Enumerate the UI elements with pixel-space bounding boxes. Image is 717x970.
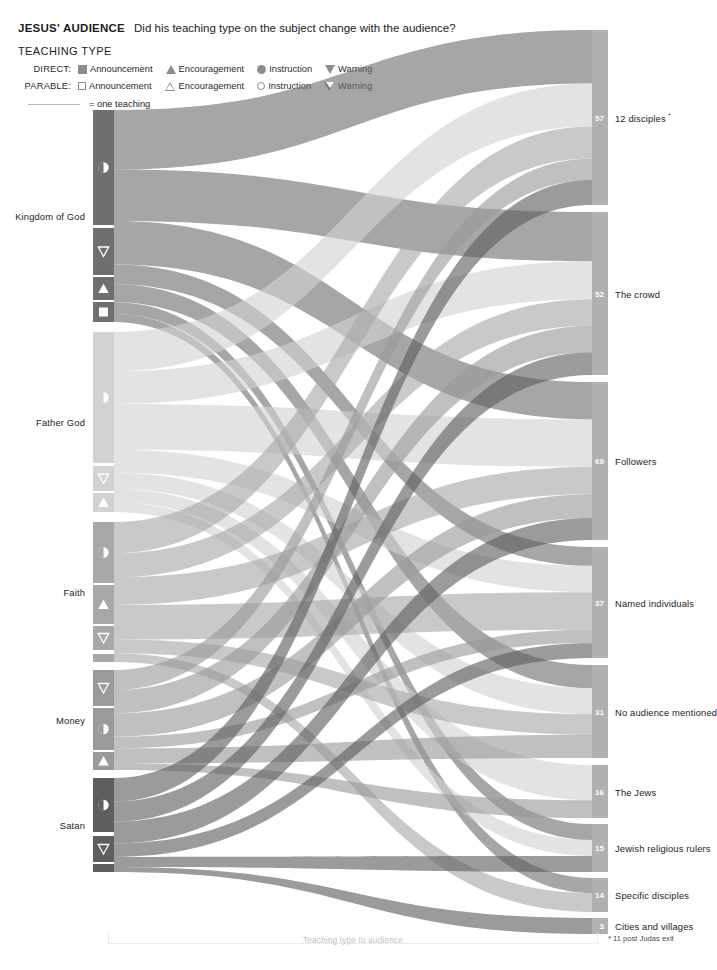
circle-half-icon	[98, 392, 108, 402]
source-node-label: Kingdom of God	[0, 211, 85, 222]
target-node-value: 57	[588, 113, 604, 122]
axis-caption: Teaching type to audience	[108, 936, 598, 945]
source-node-segment[interactable]	[93, 228, 114, 275]
source-node-segment[interactable]	[93, 670, 114, 706]
circle-half-icon	[98, 800, 108, 810]
target-node-value: 31	[588, 707, 604, 716]
target-node-label: Cities and villages	[615, 921, 693, 932]
target-node-label: 12 disciples *	[615, 111, 671, 123]
target-node-value: 3	[588, 922, 604, 931]
target-node-label: Jewish religious rulers	[615, 843, 711, 854]
target-node-label: No audience mentioned	[615, 706, 717, 717]
target-node-label: Followers	[615, 456, 656, 467]
target-node-label: The Jews	[615, 786, 656, 797]
source-node-label: Faith	[0, 587, 85, 598]
target-node-label: Specific disciples	[615, 890, 689, 901]
target-node-value: 16	[588, 787, 604, 796]
source-node-segment[interactable]	[93, 864, 114, 872]
source-node-label: Money	[0, 715, 85, 726]
source-node-segment[interactable]	[93, 654, 114, 662]
target-node-value: 15	[588, 844, 604, 853]
footnote: * 11 post Judas exit	[608, 934, 674, 943]
target-node-value: 37	[588, 598, 604, 607]
circle-half-icon	[98, 724, 108, 734]
flows-layer	[114, 30, 592, 934]
footnote-marker: *	[666, 111, 671, 118]
target-node-label: The crowd	[615, 288, 660, 299]
source-node-label: Satan	[0, 820, 85, 831]
source-node-label: Father God	[0, 417, 85, 428]
circle-half-icon	[98, 162, 108, 172]
source-node-segment[interactable]	[93, 466, 114, 491]
circle-half-icon	[98, 547, 108, 557]
source-node-segment[interactable]	[93, 626, 114, 650]
target-node-value: 69	[588, 457, 604, 466]
target-node-value: 14	[588, 891, 604, 900]
target-node-value: 52	[588, 289, 604, 298]
source-node-segment[interactable]	[93, 836, 114, 862]
target-node-label: Named individuals	[615, 597, 694, 608]
square-icon	[99, 308, 108, 317]
